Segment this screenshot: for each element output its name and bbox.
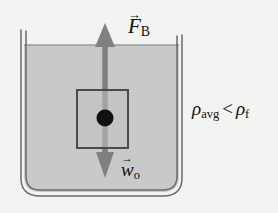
buoyant-force-label: → F B xyxy=(128,16,150,39)
rho-subscript-fluid: f xyxy=(245,107,249,121)
vector-symbol-f: → F xyxy=(128,16,141,37)
vector-arrow-accent-wo: → xyxy=(121,153,133,165)
center-of-mass-dot xyxy=(97,110,114,127)
vector-symbol-w: → w xyxy=(121,160,134,179)
density-inequality: ρavg<ρf xyxy=(192,99,249,120)
rho-symbol-avg: ρ xyxy=(192,98,201,119)
vector-arrow-accent-fb: → xyxy=(128,8,141,21)
buoyant-arrow-head xyxy=(95,23,115,47)
force-subscript-o: o xyxy=(134,168,140,182)
rho-subscript-avg: avg xyxy=(201,107,219,121)
weight-force-label: → w o xyxy=(121,160,140,181)
less-than-symbol: < xyxy=(219,98,236,119)
force-subscript-b: B xyxy=(141,24,150,39)
buoyancy-diagram: → F B → w o ρavg<ρf xyxy=(0,0,278,213)
rho-symbol-fluid: ρ xyxy=(236,98,245,119)
